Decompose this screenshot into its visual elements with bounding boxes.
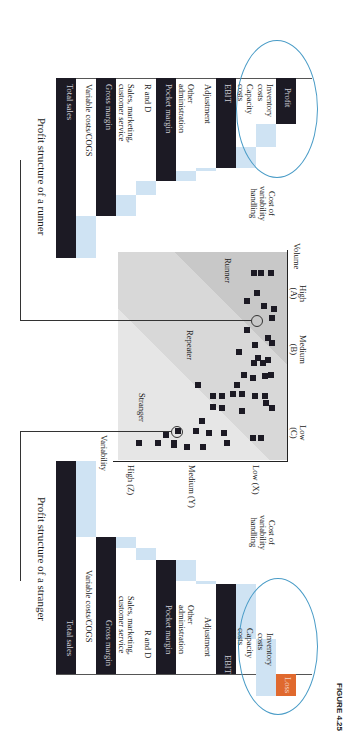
runner-label-7: Adjustment — [203, 84, 212, 124]
stranger-label-4: R and D — [143, 630, 152, 658]
x-axis — [287, 250, 288, 462]
stranger-label-3: Sales, marketing,customer service — [117, 596, 135, 655]
stranger-rd — [136, 548, 156, 560]
y-tick-low: Low (X) — [251, 465, 260, 495]
stranger-title: Profit structure of a stranger — [36, 497, 48, 621]
runner-title: Profit structure of a runner — [36, 118, 48, 235]
runner-brace-label: Cost ofvariabilityhandling — [249, 186, 276, 221]
stranger-brace-label: Cost ofvariabilityhandling — [249, 515, 276, 550]
runner-label-1: Variable costs/COGS — [84, 84, 93, 156]
y-tick-medium: Medium (Y) — [187, 465, 196, 508]
runner-adj — [196, 168, 216, 171]
stranger-label-6: Otheradministration — [177, 605, 195, 654]
runner-label-0: Total sales — [65, 84, 74, 120]
runner-leader-h — [20, 320, 251, 321]
runner-rd — [136, 181, 156, 195]
runner-ellipse — [236, 40, 318, 178]
zone-runner: Runner — [223, 258, 232, 283]
stranger-variable — [76, 461, 96, 537]
matrix-bg — [118, 252, 288, 460]
x-tick-high: High(A) — [289, 285, 307, 302]
stranger-label-0: Total sales — [65, 620, 74, 656]
stranger-sales — [116, 537, 136, 548]
stranger-label-7: Adjustment — [203, 617, 212, 657]
stranger-leader-v — [20, 431, 21, 581]
stranger-ellipse — [238, 578, 318, 715]
x-tick-medium: Medium(B) — [289, 335, 307, 364]
runner-label-4: R and D — [143, 84, 152, 112]
stranger-marker — [171, 426, 183, 438]
runner-variable — [76, 216, 96, 258]
runner-other — [176, 171, 196, 181]
stranger-adj — [196, 581, 216, 584]
runner-label-2: Gross margin — [104, 84, 113, 130]
y-axis — [113, 461, 288, 462]
runner-marker — [251, 315, 263, 327]
runner-label-6: Otheradministration — [177, 84, 195, 164]
x-tick-low: Low(C) — [289, 425, 307, 441]
stranger-leader-h — [20, 431, 171, 432]
y-axis-label: Variability — [99, 435, 108, 471]
runner-leader-v — [20, 160, 21, 321]
zone-stranger: Stranger — [137, 393, 146, 422]
runner-sales — [116, 195, 136, 216]
y-tick-high: High (Z) — [126, 465, 135, 495]
runner-label-5: Pocket margin — [164, 84, 173, 133]
stranger-label-5: Pocket margin — [164, 605, 173, 654]
x-axis-label: Volume — [292, 243, 301, 269]
figure-label: FIGURE 4.25 — [335, 683, 344, 731]
stranger-label-1: Variable costs/COGS — [84, 570, 93, 642]
stranger-other — [176, 560, 196, 581]
runner-label-3: Sales, marketing,customer service — [117, 84, 135, 194]
stranger-label-8: EBIT — [223, 655, 232, 674]
zone-repeater: Repeater — [185, 330, 194, 360]
runner-label-8: EBIT — [223, 84, 232, 103]
stranger-label-2: Gross margin — [104, 620, 113, 666]
